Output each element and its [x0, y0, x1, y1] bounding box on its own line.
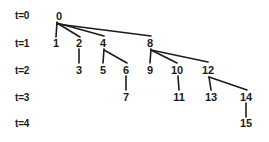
tree-node-3: 3 [76, 64, 82, 76]
time-label-3: t=3 [15, 92, 29, 103]
tree-node-1: 1 [53, 37, 59, 49]
tree-node-6: 6 [123, 64, 129, 76]
tree-node-0: 0 [56, 10, 62, 22]
tree-edge-8-to-9 [150, 49, 151, 63]
tree-node-5: 5 [100, 64, 106, 76]
tree-diagram-canvas: t=0t=1t=2t=3t=4 0124835691012711131415 [0, 0, 269, 142]
tree-edge-4-to-6 [104, 50, 127, 63]
tree-edge-10-to-11 [178, 76, 179, 90]
tree-node-9: 9 [147, 64, 153, 76]
tree-node-8: 8 [147, 37, 153, 49]
time-label-4: t=4 [15, 118, 29, 129]
tree-edge-0-to-8 [57, 24, 151, 36]
tree-node-13: 13 [205, 91, 217, 103]
tree-edge-8-to-12 [151, 50, 208, 62]
tree-node-14: 14 [240, 91, 252, 103]
tree-node-4: 4 [100, 37, 106, 49]
tree-node-2: 2 [76, 37, 82, 49]
tree-node-7: 7 [123, 91, 129, 103]
tree-edge-12-to-14 [209, 77, 247, 90]
tree-edge-12-to-13 [209, 77, 211, 90]
tree-node-11: 11 [173, 91, 185, 103]
tree-node-15: 15 [240, 117, 252, 129]
time-label-0: t=0 [15, 10, 29, 21]
tree-edges-layer [0, 0, 269, 142]
time-label-1: t=1 [15, 38, 29, 49]
tree-node-10: 10 [171, 64, 183, 76]
time-label-2: t=2 [15, 65, 29, 76]
tree-node-12: 12 [202, 64, 214, 76]
tree-edge-4-to-5 [103, 49, 104, 63]
